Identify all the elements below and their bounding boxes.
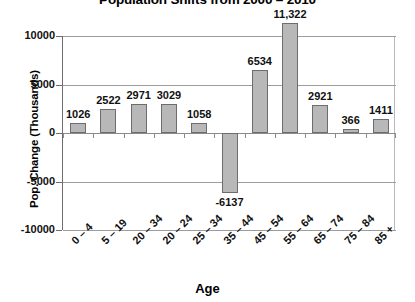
gridline xyxy=(63,85,396,86)
x-axis-tick-mark xyxy=(395,133,396,138)
x-axis-tick-mark xyxy=(154,133,155,138)
bar-value-label: 11,322 xyxy=(262,8,318,20)
y-axis-tick-label: 5000 xyxy=(0,78,55,90)
bar-value-label: 3029 xyxy=(141,89,197,101)
y-axis-title: Pop. Change (Thousands) xyxy=(28,39,40,239)
bar-value-label: 1058 xyxy=(171,108,227,120)
y-axis-tick-label: -10000 xyxy=(0,223,55,235)
bar-value-label: -6137 xyxy=(202,196,258,208)
chart-title: Population Shifts from 2000 – 2010 xyxy=(0,0,415,7)
x-axis-tick-mark xyxy=(184,133,185,138)
y-axis-tick-label: 10000 xyxy=(0,29,55,41)
bar xyxy=(100,109,116,133)
x-axis-tick-mark xyxy=(275,133,276,138)
bar-value-label: 1026 xyxy=(50,108,106,120)
bar-value-label: 6534 xyxy=(232,55,288,67)
x-axis-tick-mark xyxy=(245,133,246,138)
x-axis-tick-mark xyxy=(335,133,336,138)
x-axis-tick-mark xyxy=(124,133,125,138)
bar xyxy=(131,104,147,133)
x-axis-tick-mark xyxy=(214,133,215,138)
bar xyxy=(343,129,359,133)
x-axis-tick-mark xyxy=(366,133,367,138)
plot-area: 10262522297130291058-6137653411,32229213… xyxy=(62,36,395,230)
bar xyxy=(191,123,207,133)
bar-chart: Population Shifts from 2000 – 2010 Pop. … xyxy=(0,0,415,302)
x-axis-tick-mark xyxy=(93,133,94,138)
x-axis-tick-mark xyxy=(63,133,64,138)
x-axis-tick-mark xyxy=(305,133,306,138)
y-axis-tick-mark xyxy=(56,230,62,231)
bar-value-label: 2921 xyxy=(292,90,348,102)
bar xyxy=(282,23,298,133)
bar xyxy=(252,70,268,133)
y-axis-tick-label: 0 xyxy=(0,126,55,138)
x-axis-title: Age xyxy=(0,281,415,296)
y-axis-tick-label: -5000 xyxy=(0,175,55,187)
gridline xyxy=(63,36,396,37)
bar xyxy=(373,119,389,133)
bar-value-label: 1411 xyxy=(353,104,409,116)
bar xyxy=(70,123,86,133)
bar xyxy=(222,133,238,193)
